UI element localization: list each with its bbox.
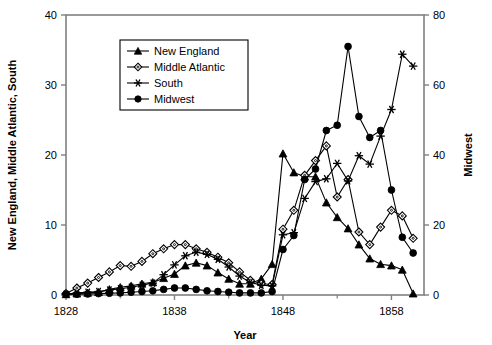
marker-filled-triangle <box>192 259 200 266</box>
marker-open-diamond <box>290 206 298 214</box>
marker-open-diamond <box>398 212 406 220</box>
y-tick-label: 0 <box>51 289 57 301</box>
y-tick-label: 20 <box>45 149 57 161</box>
marker-filled-triangle <box>225 275 233 282</box>
marker-filled-circle <box>269 288 276 295</box>
x-tick-label: 1848 <box>271 305 295 317</box>
marker-filled-triangle <box>398 266 406 273</box>
marker-filled-circle <box>366 134 373 141</box>
marker-filled-circle <box>225 289 232 296</box>
y-tick-label: 10 <box>45 219 57 231</box>
marker-open-diamond <box>322 142 330 150</box>
x-axis-label: Year <box>233 329 257 341</box>
marker-filled-circle <box>258 290 265 297</box>
marker-filled-triangle <box>355 241 363 248</box>
y-axis-label: New England, Middle Atlantic, South <box>6 60 18 251</box>
marker-filled-triangle <box>290 169 298 176</box>
marker-filled-circle <box>128 289 135 296</box>
y2-tick-label: 20 <box>433 219 445 231</box>
y2-tick-label: 80 <box>433 9 445 21</box>
marker-filled-circle <box>388 187 395 194</box>
marker-filled-triangle <box>322 199 330 206</box>
marker-filled-circle <box>106 290 113 297</box>
marker-open-diamond <box>387 206 395 214</box>
marker-filled-circle <box>399 234 406 241</box>
marker-filled-circle <box>280 246 287 253</box>
marker-filled-circle <box>193 286 200 293</box>
marker-filled-triangle <box>333 214 341 221</box>
legend-label-2: South <box>154 77 183 89</box>
marker-filled-circle <box>345 43 352 50</box>
legend: New EnglandMiddle AtlanticSouthMidwest <box>120 40 248 110</box>
marker-open-diamond <box>127 262 135 270</box>
legend-label-1: Middle Atlantic <box>154 61 225 73</box>
marker-filled-circle <box>117 290 124 297</box>
x-tick-label: 1828 <box>54 305 78 317</box>
marker-filled-circle <box>290 232 297 239</box>
marker-filled-circle <box>377 127 384 134</box>
series-middle-atlantic <box>62 142 417 298</box>
y2-tick-label: 60 <box>433 79 445 91</box>
y2-tick-label: 0 <box>433 289 439 301</box>
y2-tick-label: 40 <box>433 149 445 161</box>
marker-filled-circle <box>149 287 156 294</box>
marker-filled-circle <box>334 122 341 129</box>
marker-filled-triangle <box>409 290 417 297</box>
marker-open-diamond <box>160 245 168 253</box>
marker-open-diamond <box>116 262 124 270</box>
marker-filled-triangle <box>279 150 287 157</box>
marker-filled-circle <box>356 113 363 120</box>
marker-filled-circle <box>171 285 178 292</box>
marker-filled-circle <box>160 286 167 293</box>
marker-open-diamond <box>105 268 113 276</box>
marker-filled-circle <box>312 166 319 173</box>
marker-filled-circle <box>73 291 80 298</box>
marker-filled-circle <box>410 250 417 257</box>
marker-filled-circle <box>84 291 91 298</box>
x-tick-label: 1858 <box>379 305 403 317</box>
marker-open-diamond <box>149 250 157 258</box>
marker-filled-triangle <box>214 269 222 276</box>
marker-open-diamond <box>138 257 146 265</box>
marker-open-diamond <box>377 223 385 231</box>
marker-filled-circle <box>323 127 330 134</box>
marker-open-diamond <box>84 279 92 287</box>
marker-filled-circle <box>182 285 189 292</box>
marker-filled-circle <box>204 287 211 294</box>
x-tick-label: 1838 <box>162 305 186 317</box>
marker-open-diamond <box>409 234 417 242</box>
marker-open-diamond <box>333 193 341 201</box>
legend-label-0: New England <box>154 45 219 57</box>
marker-filled-circle <box>301 176 308 183</box>
y2-axis-label: Midwest <box>462 133 474 177</box>
y-tick-label: 40 <box>45 9 57 21</box>
marker-filled-circle <box>95 290 102 297</box>
marker-filled-circle <box>214 288 221 295</box>
marker-open-diamond <box>95 274 103 282</box>
y-tick-label: 30 <box>45 79 57 91</box>
marker-open-diamond <box>170 241 178 249</box>
marker-filled-circle <box>135 96 141 102</box>
marker-filled-triangle <box>268 260 276 267</box>
marker-open-diamond <box>279 225 287 233</box>
marker-filled-circle <box>236 290 243 297</box>
marker-filled-circle <box>63 291 70 298</box>
chart-figure: 0102030400204060801828183818481858YearNe… <box>0 0 492 345</box>
marker-open-diamond <box>181 241 189 249</box>
chart-svg: 0102030400204060801828183818481858YearNe… <box>0 0 492 345</box>
marker-filled-circle <box>247 290 254 297</box>
legend-label-3: Midwest <box>154 93 194 105</box>
marker-filled-circle <box>139 288 146 295</box>
